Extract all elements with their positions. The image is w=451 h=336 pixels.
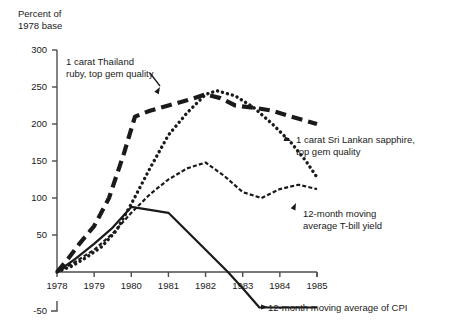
x-tick-label: 1984: [260, 280, 300, 291]
x-tick-label: 1979: [74, 280, 114, 291]
y-tick-label: 300: [17, 44, 47, 55]
y-tick-label: -50: [17, 305, 47, 316]
x-tick-label: 1983: [223, 280, 263, 291]
y-tick-label: 250: [17, 81, 47, 92]
annotation-cpi: 12-month moving average of CPI: [268, 302, 407, 314]
tbill-arrowhead: [291, 202, 299, 211]
chart-page: Percent of 1978 base 30025020015010050-5…: [0, 0, 451, 336]
series-line: [57, 91, 317, 272]
series-group: [57, 91, 317, 308]
y-tick-label: 50: [17, 229, 47, 240]
series-line: [57, 163, 317, 273]
y-tick-label: 100: [17, 192, 47, 203]
annotation-sapphire: 1 carat Sri Lankan sapphire, top gem qua…: [296, 134, 415, 157]
y-tick-label: 150: [17, 155, 47, 166]
axes-group: [51, 50, 317, 311]
y-tick-label: 200: [17, 118, 47, 129]
x-tick-label: 1978: [37, 280, 77, 291]
series-line: [57, 207, 317, 308]
series-line: [57, 94, 317, 272]
cpi-arrowhead: [261, 304, 268, 309]
x-tick-label: 1981: [148, 280, 188, 291]
x-tick-label: 1982: [186, 280, 226, 291]
ruby-arrowhead: [154, 86, 162, 95]
x-tick-label: 1980: [111, 280, 151, 291]
x-tick-label: 1985: [297, 280, 337, 291]
annotation-tbill: 12-month moving average T-bill yield: [303, 208, 382, 231]
y-axis-break-stub: [51, 301, 57, 311]
annotation-ruby: 1 carat Thailand ruby, top gem quality: [66, 56, 153, 79]
